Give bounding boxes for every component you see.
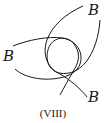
label-b-top-right: B [88, 3, 99, 18]
knot-diagram-figure: B B B (VIII) [0, 0, 106, 123]
figure-caption: (VIII) [0, 107, 106, 120]
label-b-left: B [3, 49, 14, 64]
label-b-bottom-right: B [88, 90, 99, 105]
